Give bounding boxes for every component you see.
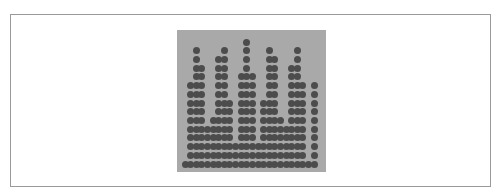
data-point — [266, 47, 273, 54]
data-point — [311, 126, 318, 133]
data-point — [249, 73, 256, 80]
data-point — [221, 91, 228, 98]
data-point — [249, 100, 256, 107]
data-point — [294, 56, 301, 63]
data-point — [294, 73, 301, 80]
data-point — [243, 56, 250, 63]
data-point — [299, 117, 306, 124]
data-point — [198, 117, 205, 124]
data-point — [311, 100, 318, 107]
dot-plot-area — [177, 30, 326, 172]
data-point — [311, 91, 318, 98]
data-point — [198, 91, 205, 98]
data-point — [243, 65, 250, 72]
data-point — [249, 134, 256, 141]
data-point — [243, 39, 250, 46]
data-point — [198, 73, 205, 80]
data-point — [299, 100, 306, 107]
data-point — [299, 152, 306, 159]
data-point — [311, 117, 318, 124]
data-point — [221, 65, 228, 72]
data-point — [311, 161, 318, 168]
data-point — [198, 65, 205, 72]
data-point — [294, 47, 301, 54]
data-point — [249, 108, 256, 115]
data-point — [271, 65, 278, 72]
data-point — [299, 82, 306, 89]
data-point — [221, 47, 228, 54]
data-point — [271, 91, 278, 98]
data-point — [299, 143, 306, 150]
data-point — [311, 134, 318, 141]
data-point — [249, 117, 256, 124]
data-point — [243, 47, 250, 54]
data-point — [193, 47, 200, 54]
data-point — [226, 126, 233, 133]
data-point — [271, 56, 278, 63]
data-point — [221, 56, 228, 63]
data-point — [198, 82, 205, 89]
data-point — [311, 82, 318, 89]
data-point — [299, 91, 306, 98]
data-point — [299, 126, 306, 133]
data-point — [226, 134, 233, 141]
data-point — [249, 82, 256, 89]
data-point — [311, 108, 318, 115]
data-point — [221, 73, 228, 80]
data-point — [299, 108, 306, 115]
data-point — [271, 73, 278, 80]
data-point — [277, 117, 284, 124]
data-point — [294, 65, 301, 72]
data-point — [226, 100, 233, 107]
data-point — [249, 126, 256, 133]
data-point — [271, 100, 278, 107]
data-point — [249, 91, 256, 98]
data-point — [226, 117, 233, 124]
data-point — [193, 56, 200, 63]
data-point — [271, 82, 278, 89]
data-point — [299, 134, 306, 141]
data-point — [198, 100, 205, 107]
data-point — [221, 82, 228, 89]
data-point — [271, 108, 278, 115]
data-point — [226, 108, 233, 115]
data-point — [311, 152, 318, 159]
data-point — [311, 143, 318, 150]
data-point — [198, 108, 205, 115]
